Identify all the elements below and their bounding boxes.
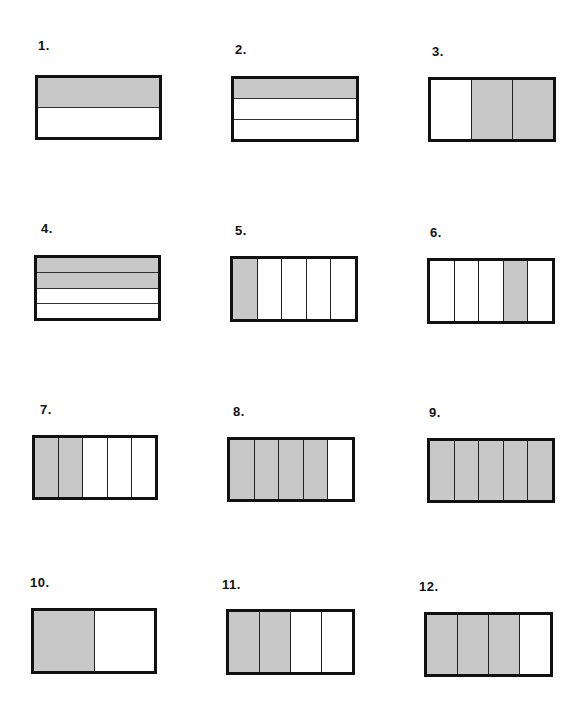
item-number: 9. [429, 405, 441, 420]
fraction-rectangle [226, 609, 355, 675]
unshaded-part [257, 259, 282, 319]
unshaded-part [94, 611, 155, 671]
shaded-part [37, 258, 158, 272]
shaded-part [478, 441, 503, 500]
unshaded-part [131, 438, 155, 497]
unshaded-part [234, 98, 356, 118]
unshaded-part [38, 107, 159, 137]
unshaded-part [527, 261, 552, 321]
fraction-rectangle [34, 255, 161, 321]
unshaded-part [454, 261, 479, 321]
unshaded-part [431, 80, 471, 139]
shaded-part [234, 79, 356, 98]
item-number: 8. [233, 404, 245, 419]
shaded-part [503, 261, 528, 321]
shaded-part [229, 612, 259, 672]
shaded-part [488, 615, 519, 674]
shaded-part [512, 80, 553, 139]
shaded-part [35, 438, 58, 497]
shaded-part [278, 440, 303, 499]
unshaded-part [327, 440, 352, 499]
unshaded-part [306, 259, 331, 319]
shaded-part [303, 440, 328, 499]
shaded-part [527, 441, 552, 500]
fraction-rectangle [227, 437, 355, 502]
fraction-rectangle [32, 435, 158, 500]
shaded-part [471, 80, 512, 139]
item-number: 1. [38, 38, 50, 53]
fraction-rectangle [427, 258, 555, 324]
shaded-part [34, 611, 94, 671]
fraction-rectangle [35, 75, 162, 140]
item-number: 6. [430, 225, 442, 240]
shaded-part [38, 78, 159, 107]
unshaded-part [519, 615, 550, 674]
item-number: 5. [235, 223, 247, 238]
unshaded-part [290, 612, 321, 672]
unshaded-part [430, 261, 454, 321]
fraction-rectangle [428, 77, 556, 142]
item-number: 11. [222, 577, 241, 592]
shaded-part [233, 259, 257, 319]
shaded-part [254, 440, 279, 499]
fraction-rectangle [230, 256, 358, 322]
fraction-rectangle [424, 612, 553, 677]
unshaded-part [234, 119, 356, 139]
item-number: 3. [432, 44, 444, 59]
item-number: 10. [30, 575, 50, 590]
fraction-rectangle [231, 76, 359, 142]
shaded-part [503, 441, 528, 500]
fraction-rectangle [427, 438, 555, 503]
unshaded-part [478, 261, 503, 321]
shaded-part [230, 440, 254, 499]
item-number: 4. [41, 221, 53, 236]
item-number: 2. [235, 42, 247, 57]
unshaded-part [37, 288, 158, 303]
unshaded-part [321, 612, 352, 672]
unshaded-part [37, 303, 158, 318]
fraction-rectangle [31, 608, 157, 674]
shaded-part [259, 612, 290, 672]
shaded-part [457, 615, 488, 674]
unshaded-part [330, 259, 355, 319]
shaded-part [454, 441, 479, 500]
shaded-part [37, 272, 158, 287]
shaded-part [58, 438, 82, 497]
item-number: 12. [419, 579, 439, 594]
unshaded-part [107, 438, 131, 497]
item-number: 7. [40, 402, 52, 417]
shaded-part [430, 441, 454, 500]
unshaded-part [281, 259, 306, 319]
unshaded-part [82, 438, 106, 497]
shaded-part [427, 615, 457, 674]
